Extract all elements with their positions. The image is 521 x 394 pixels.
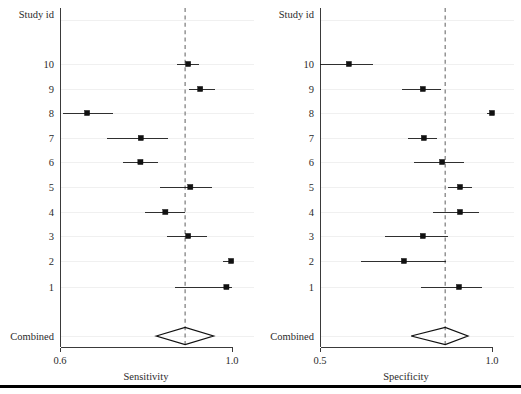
point-estimate-marker bbox=[346, 61, 351, 66]
study-row-label: 9 bbox=[49, 84, 54, 95]
point-estimate-marker bbox=[229, 258, 234, 263]
point-estimate-marker bbox=[186, 233, 191, 238]
study-row-label: 6 bbox=[49, 157, 54, 168]
x-tick-label: 1.0 bbox=[225, 355, 238, 366]
study-row-label: 2 bbox=[309, 256, 314, 267]
point-estimate-marker bbox=[420, 86, 425, 91]
study-row-label: 7 bbox=[49, 133, 54, 144]
point-estimate-marker bbox=[456, 284, 461, 289]
point-estimate-marker bbox=[420, 233, 425, 238]
study-row-label: 10 bbox=[304, 59, 315, 70]
point-estimate-marker bbox=[138, 159, 143, 164]
study-row-label: 8 bbox=[309, 108, 314, 119]
study-row-label: 6 bbox=[309, 157, 314, 168]
combined-row-label: Combined bbox=[270, 331, 314, 342]
sensitivity-panel: 0.61.0Study id10987654321CombinedSensiti… bbox=[0, 0, 261, 394]
study-row-label: 1 bbox=[49, 282, 54, 293]
specificity-plot-svg: 0.51.0Study id10987654321CombinedSpecifi… bbox=[260, 0, 521, 394]
study-id-header: Study id bbox=[279, 9, 315, 20]
study-row-label: 4 bbox=[309, 207, 315, 218]
point-estimate-marker bbox=[440, 159, 445, 164]
point-estimate-marker bbox=[489, 110, 494, 115]
study-row-label: 5 bbox=[49, 182, 54, 193]
x-axis-title: Specificity bbox=[383, 371, 429, 382]
study-row-label: 7 bbox=[309, 133, 314, 144]
specificity-panel: 0.51.0Study id10987654321CombinedSpecifi… bbox=[260, 0, 521, 394]
study-row-label: 3 bbox=[49, 231, 54, 242]
study-row-label: 10 bbox=[44, 59, 55, 70]
x-tick-label: 0.5 bbox=[313, 355, 326, 366]
study-row-label: 1 bbox=[309, 282, 314, 293]
point-estimate-marker bbox=[421, 135, 426, 140]
study-row-label: 4 bbox=[49, 207, 55, 218]
point-estimate-marker bbox=[188, 184, 193, 189]
point-estimate-marker bbox=[163, 209, 168, 214]
point-estimate-marker bbox=[457, 184, 462, 189]
x-axis-title: Sensitivity bbox=[124, 371, 170, 382]
bottom-horizontal-rule bbox=[0, 385, 521, 388]
study-row-label: 9 bbox=[309, 84, 314, 95]
point-estimate-marker bbox=[84, 110, 89, 115]
point-estimate-marker bbox=[186, 61, 191, 66]
x-tick-label: 1.0 bbox=[485, 355, 498, 366]
point-estimate-marker bbox=[224, 284, 229, 289]
point-estimate-marker bbox=[457, 209, 462, 214]
combined-row-label: Combined bbox=[10, 331, 54, 342]
study-row-label: 2 bbox=[49, 256, 54, 267]
point-estimate-marker bbox=[198, 86, 203, 91]
sensitivity-plot-svg: 0.61.0Study id10987654321CombinedSensiti… bbox=[0, 0, 261, 394]
study-row-label: 5 bbox=[309, 182, 314, 193]
forest-plot-figure: 0.61.0Study id10987654321CombinedSensiti… bbox=[0, 0, 521, 394]
point-estimate-marker bbox=[401, 258, 406, 263]
study-row-label: 8 bbox=[49, 108, 54, 119]
point-estimate-marker bbox=[138, 135, 143, 140]
study-id-header: Study id bbox=[19, 9, 55, 20]
study-row-label: 3 bbox=[309, 231, 314, 242]
x-tick-label: 0.6 bbox=[53, 355, 66, 366]
